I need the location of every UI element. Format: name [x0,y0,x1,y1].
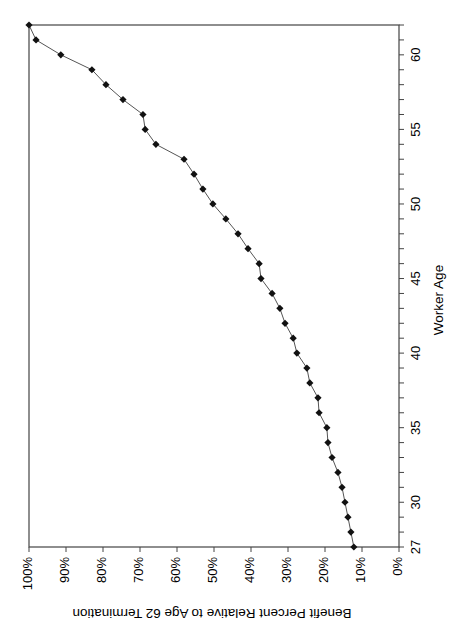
data-point-diamond [338,484,345,491]
data-point-diamond [268,290,275,297]
percent-tick-label: 70% [131,557,146,583]
data-point-diamond [32,36,39,43]
plot-frame [29,25,399,547]
data-point-diamond [323,424,330,431]
data-point-diamond [244,245,251,252]
data-point-diamond [180,156,187,163]
data-point-diamond [347,528,354,535]
series-line [29,25,354,547]
y-axis-title: Benefit Percent Relative to Age 62 Termi… [73,606,352,621]
data-point-diamond [306,379,313,386]
x-axis-title: Worker Age [431,265,446,335]
data-point-diamond [324,439,331,446]
data-point-diamond [281,320,288,327]
age-tick-label: 45 [408,271,423,285]
benefit-percent-axis: 0%10%20%30%40%50%60%70%80%90%100% [20,547,405,590]
age-tick-label: 55 [408,122,423,136]
data-point-diamond [199,185,206,192]
percent-tick-label: 100% [20,557,35,591]
data-point-diamond [25,21,32,28]
chart: 2730354045505560 0%10%20%30%40%50%60%70%… [0,0,466,637]
age-tick-label: 40 [408,346,423,360]
data-point-diamond [142,126,149,133]
data-point-diamond [341,499,348,506]
age-tick-label: 35 [408,420,423,434]
data-point-diamond [334,469,341,476]
data-point-diamond [257,275,264,282]
worker-age-axis: 2730354045505560 [399,25,423,554]
data-point-diamond [303,364,310,371]
age-tick-label: 30 [408,495,423,509]
data-point-diamond [276,305,283,312]
percent-tick-label: 60% [168,557,183,583]
percent-tick-label: 20% [316,557,331,583]
data-point-diamond [139,111,146,118]
data-point-diamond [293,350,300,357]
data-point-diamond [190,171,197,178]
data-point-diamond [328,454,335,461]
data-point-diamond [290,335,297,342]
percent-tick-label: 10% [353,557,368,583]
data-point-diamond [256,260,263,267]
percent-tick-label: 0% [390,557,405,576]
data-point-diamond [314,394,321,401]
plot-area [25,21,399,550]
data-point-diamond [344,514,351,521]
age-tick-label: 50 [408,197,423,211]
percent-tick-label: 80% [94,557,109,583]
age-tick-label: 27 [408,540,423,554]
percent-tick-label: 50% [205,557,220,583]
age-tick-label: 60 [408,48,423,62]
percent-tick-label: 90% [57,557,72,583]
percent-tick-label: 30% [279,557,294,583]
data-point-diamond [57,51,64,58]
data-point-diamond [350,543,357,550]
percent-tick-label: 40% [242,557,257,583]
data-point-diamond [152,141,159,148]
data-point-diamond [315,409,322,416]
